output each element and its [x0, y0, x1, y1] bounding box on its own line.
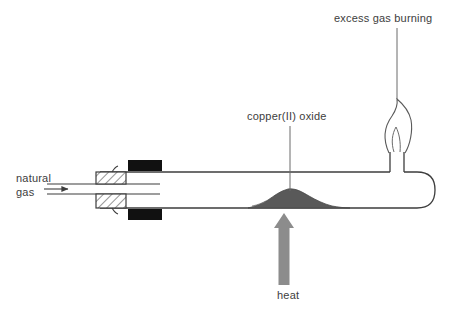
- label-natural-gas-line2: gas: [16, 186, 34, 199]
- outlet-nozzle: [390, 152, 404, 172]
- rubber-bung: [96, 166, 126, 214]
- clamp-block-bottom: [128, 209, 162, 220]
- copper-oxide-powder: [248, 189, 350, 208]
- heat-arrow: [274, 213, 294, 285]
- flame: [385, 99, 411, 153]
- apparatus-diagram: [0, 0, 453, 310]
- label-excess-gas-burning: excess gas burning: [334, 12, 432, 25]
- diagram-canvas: excess gas burning copper(II) oxide natu…: [0, 0, 453, 310]
- label-natural-gas-line1: natural: [16, 172, 51, 185]
- label-copper-oxide: copper(II) oxide: [247, 110, 327, 123]
- label-heat: heat: [277, 289, 299, 302]
- clamp-block-top: [128, 160, 162, 171]
